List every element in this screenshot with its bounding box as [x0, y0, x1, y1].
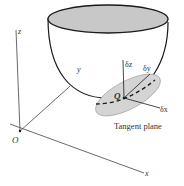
delta-x-label: δx — [160, 105, 168, 114]
point-q — [123, 97, 126, 100]
point-q-label: Q — [114, 91, 121, 101]
x-axis-label: x — [144, 169, 149, 178]
origin-label: O — [12, 135, 19, 145]
origin-point — [19, 130, 21, 132]
delta-z-label: δz — [125, 60, 133, 69]
x-axis — [10, 124, 144, 173]
z-axis-label: z — [17, 27, 22, 36]
y-axis — [20, 88, 68, 131]
delta-y-label: δy — [143, 64, 151, 73]
bowl-top — [48, 5, 168, 33]
tangent-plane-diagram: z y x O Q δz δy δx Tangent plane Fig. 24… — [0, 0, 184, 186]
figure-caption: Fig. 24.3 — [10, 184, 43, 186]
z-axis — [16, 30, 20, 131]
y-axis-label: y — [76, 65, 81, 74]
tangent-plane-label: Tangent plane — [114, 121, 162, 131]
